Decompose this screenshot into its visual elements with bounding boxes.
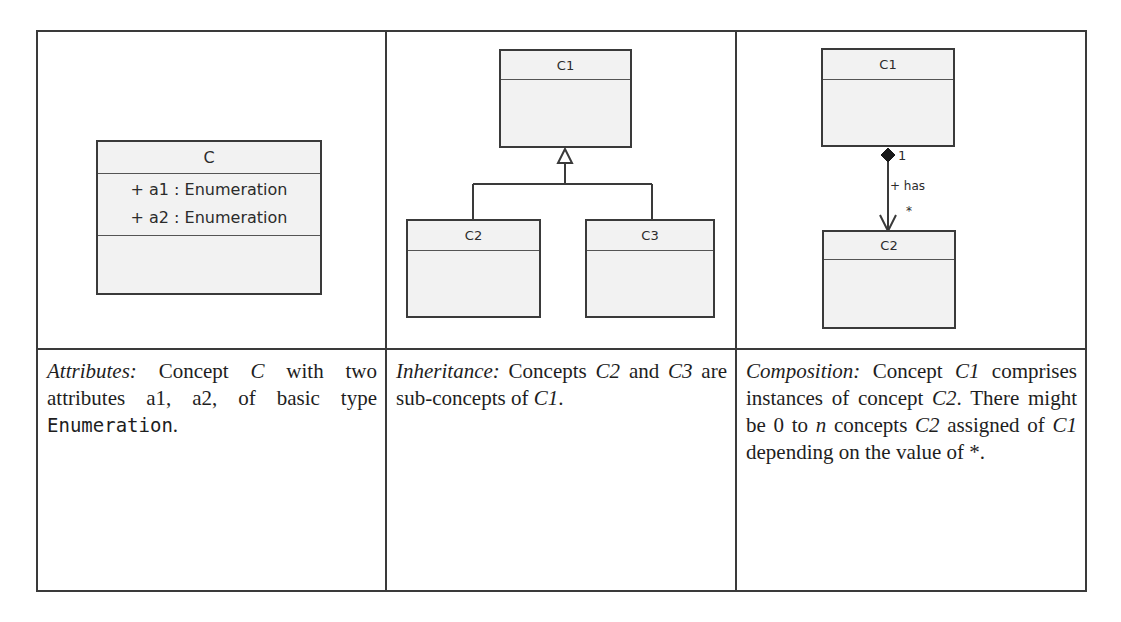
term: Inheritance: xyxy=(396,359,500,383)
filled-diamond-icon xyxy=(881,148,895,162)
text: Concept xyxy=(860,359,955,383)
inheritance-description: Inheritance: Concepts C2 and C3 are sub-… xyxy=(387,350,735,592)
term: Attributes: xyxy=(47,359,137,383)
class-c2: C2 xyxy=(822,230,956,329)
class-c2: C2 xyxy=(406,219,541,318)
attributes-description: Attributes: Concept C with two attribute… xyxy=(38,350,385,592)
concept-ref: C1 xyxy=(1052,413,1077,437)
concept-ref: C2 xyxy=(596,359,621,383)
multiplicity-whole: 1 xyxy=(898,148,906,163)
class-name: C xyxy=(98,142,320,174)
text: assigned of xyxy=(940,413,1053,437)
variable-n: n xyxy=(816,413,827,437)
class-name: C2 xyxy=(408,221,539,251)
type-name: Enumeration xyxy=(47,414,173,436)
class-c: C + a1 : Enumeration + a2 : Enumeration xyxy=(96,140,322,295)
text: Concepts xyxy=(500,359,596,383)
class-attributes: + a1 : Enumeration + a2 : Enumeration xyxy=(98,174,320,236)
term: Composition: xyxy=(746,359,860,383)
attribute-a1: + a1 : Enumeration xyxy=(98,176,320,204)
multiplicity-part: * xyxy=(906,204,912,218)
attributes-diagram-cell: C + a1 : Enumeration + a2 : Enumeration xyxy=(38,32,385,348)
concept-ref: C3 xyxy=(668,359,693,383)
composition-description: Composition: Concept C1 comprises instan… xyxy=(737,350,1085,592)
concept-ref: C2 xyxy=(915,413,940,437)
text: Concept xyxy=(137,359,251,383)
class-name: C3 xyxy=(587,221,713,251)
text: and xyxy=(620,359,668,383)
text: concepts xyxy=(826,413,915,437)
uml-concepts-table: C + a1 : Enumeration + a2 : Enumeration … xyxy=(36,30,1087,592)
hollow-triangle-icon xyxy=(558,149,572,163)
text: depending on the value of *. xyxy=(746,440,985,464)
composition-diagram-cell: C1 1 + has * C2 xyxy=(737,32,1087,348)
concept-ref: C xyxy=(250,359,264,383)
text: . xyxy=(173,413,178,437)
role-label: + has xyxy=(890,179,925,193)
class-name: C2 xyxy=(824,232,954,260)
class-c3: C3 xyxy=(585,219,715,318)
concept-ref: C1 xyxy=(534,386,559,410)
concept-ref: C2 xyxy=(932,386,957,410)
concept-ref: C1 xyxy=(955,359,980,383)
text: . xyxy=(558,386,563,410)
attribute-a2: + a2 : Enumeration xyxy=(98,204,320,232)
inheritance-diagram-cell: C1 C2 C3 xyxy=(387,32,735,348)
